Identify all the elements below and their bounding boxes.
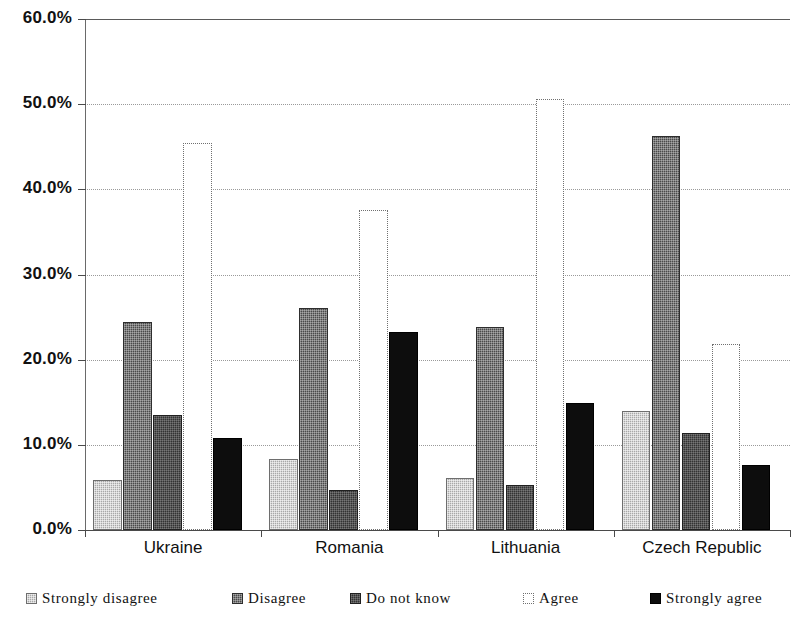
bar-ukraine-d — [123, 322, 152, 530]
x-category-label-czech-republic: Czech Republic — [612, 538, 792, 558]
bar-romania-sa — [389, 332, 418, 530]
y-tick-label: 30.0% — [23, 264, 72, 284]
y-tick-label: 0.0% — [32, 519, 72, 539]
legend-swatch-icon — [26, 593, 37, 604]
bar-romania-dnk — [329, 490, 358, 530]
legend-label: Strongly agree — [666, 590, 762, 607]
legend-label: Do not know — [366, 590, 451, 607]
bar-czech-republic-a — [712, 344, 741, 531]
legend-item-disagree[interactable]: Disagree — [232, 590, 306, 607]
legend-label: Strongly disagree — [42, 590, 158, 607]
bar-czech-republic-d — [652, 136, 681, 530]
x-tick — [85, 530, 86, 537]
legend-swatch-icon — [523, 593, 534, 604]
x-tick — [261, 530, 262, 537]
legend-swatch-icon — [650, 593, 661, 604]
legend-swatch-icon — [232, 593, 243, 604]
y-tick-label: 50.0% — [23, 93, 72, 113]
bar-lithuania-sa — [566, 403, 595, 530]
bar-ukraine-sd — [93, 480, 122, 530]
x-tick — [438, 530, 439, 537]
legend-item-agree[interactable]: Agree — [523, 590, 579, 607]
bar-romania-d — [299, 308, 328, 530]
legend-label: Disagree — [248, 590, 306, 607]
legend-item-strongly-disagree[interactable]: Strongly disagree — [26, 590, 158, 607]
bar-ukraine-dnk — [153, 415, 182, 530]
legend-swatch-icon — [350, 593, 361, 604]
bar-lithuania-dnk — [506, 485, 535, 530]
legend-label: Agree — [539, 590, 579, 607]
y-tick-label: 60.0% — [23, 8, 72, 28]
y-tick-label: 20.0% — [23, 349, 72, 369]
bar-romania-a — [359, 210, 388, 530]
bar-czech-republic-sa — [742, 465, 771, 530]
x-category-label-lithuania: Lithuania — [436, 538, 616, 558]
y-tick-label: 10.0% — [23, 434, 72, 454]
bar-lithuania-a — [536, 99, 565, 530]
bar-chart-figure: 0.0%10.0%20.0%30.0%40.0%50.0%60.0% Ukrai… — [0, 0, 808, 618]
y-tick-label: 40.0% — [23, 178, 72, 198]
bar-czech-republic-sd — [622, 411, 651, 530]
legend-item-do-not-know[interactable]: Do not know — [350, 590, 451, 607]
bar-ukraine-a — [183, 143, 212, 530]
bar-lithuania-sd — [446, 478, 475, 530]
chart-legend: Strongly disagreeDisagreeDo not knowAgre… — [0, 583, 808, 613]
bars-layer — [85, 19, 790, 530]
legend-item-strongly-agree[interactable]: Strongly agree — [650, 590, 762, 607]
bar-romania-sd — [269, 459, 298, 530]
bar-ukraine-sa — [213, 438, 242, 530]
bar-lithuania-d — [476, 327, 505, 530]
x-tick — [614, 530, 615, 537]
x-category-label-romania: Romania — [259, 538, 439, 558]
bar-czech-republic-dnk — [682, 433, 711, 530]
x-tick — [790, 530, 791, 537]
x-category-label-ukraine: Ukraine — [83, 538, 263, 558]
